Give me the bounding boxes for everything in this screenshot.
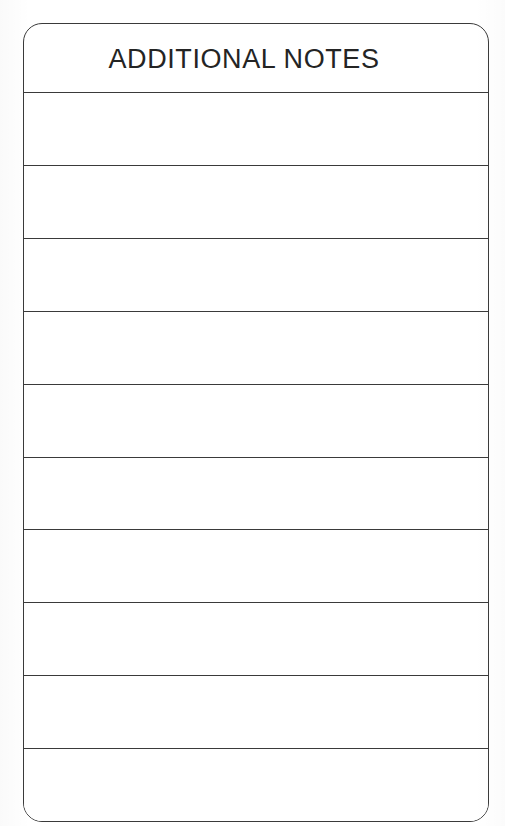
notes-row[interactable] bbox=[24, 239, 488, 312]
notes-row[interactable] bbox=[24, 312, 488, 385]
notes-rows-container bbox=[24, 93, 488, 821]
additional-notes-form: ADDITIONAL NOTES bbox=[23, 23, 489, 822]
notes-row[interactable] bbox=[24, 458, 488, 531]
notes-row[interactable] bbox=[24, 676, 488, 749]
notes-row[interactable] bbox=[24, 603, 488, 676]
notes-row[interactable] bbox=[24, 166, 488, 239]
scanned-page: ADDITIONAL NOTES bbox=[0, 0, 505, 826]
notes-row[interactable] bbox=[24, 93, 488, 166]
notes-row[interactable] bbox=[24, 385, 488, 458]
form-header: ADDITIONAL NOTES bbox=[24, 24, 488, 93]
notes-row[interactable] bbox=[24, 530, 488, 603]
notes-row[interactable] bbox=[24, 749, 488, 821]
page-title: ADDITIONAL NOTES bbox=[108, 44, 379, 75]
